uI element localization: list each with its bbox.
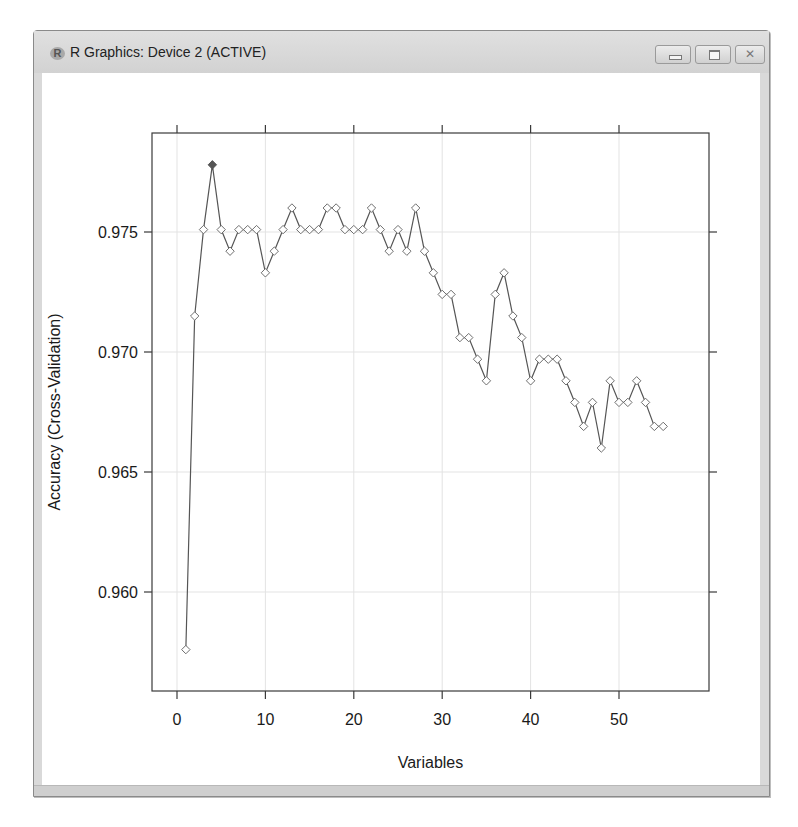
data-point-marker xyxy=(641,398,649,406)
data-point-marker xyxy=(226,247,234,255)
data-point-marker xyxy=(288,204,296,212)
data-point-marker xyxy=(297,225,305,233)
data-point-marker xyxy=(323,204,331,212)
data-point-marker xyxy=(199,225,207,233)
data-point-marker xyxy=(465,333,473,341)
data-point-marker xyxy=(650,422,658,430)
data-point-marker xyxy=(473,355,481,363)
x-axis-title: Variables xyxy=(398,754,464,771)
data-point-marker xyxy=(509,312,517,320)
window-title: R Graphics: Device 2 (ACTIVE) xyxy=(70,44,266,60)
data-point-marker xyxy=(438,290,446,298)
data-point-marker xyxy=(190,312,198,320)
best-point-marker xyxy=(208,161,216,169)
data-point-marker xyxy=(526,377,534,385)
maximize-icon xyxy=(709,50,720,60)
data-point-marker xyxy=(518,333,526,341)
data-point-marker xyxy=(562,377,570,385)
data-point-marker xyxy=(182,645,190,653)
close-icon: ✕ xyxy=(736,46,764,63)
data-point-marker xyxy=(491,290,499,298)
minimize-button[interactable] xyxy=(655,45,691,64)
window-bottom-border xyxy=(34,785,769,796)
data-point-marker xyxy=(261,269,269,277)
data-point-marker xyxy=(544,355,552,363)
y-tick-label: 0.970 xyxy=(98,344,138,361)
data-point-marker xyxy=(482,377,490,385)
data-point-marker xyxy=(235,225,243,233)
maximize-button[interactable] xyxy=(695,45,731,64)
r-app-icon: R xyxy=(50,47,65,60)
x-tick-label: 40 xyxy=(522,711,540,728)
data-point-marker xyxy=(456,333,464,341)
x-tick-label: 20 xyxy=(345,711,363,728)
x-tick-label: 30 xyxy=(433,711,451,728)
x-tick-label: 50 xyxy=(610,711,628,728)
data-point-marker xyxy=(632,377,640,385)
data-point-marker xyxy=(244,225,252,233)
y-tick-label: 0.960 xyxy=(98,584,138,601)
data-point-marker xyxy=(588,398,596,406)
data-point-marker xyxy=(571,398,579,406)
data-point-marker xyxy=(252,225,260,233)
data-point-marker xyxy=(579,422,587,430)
data-point-marker xyxy=(358,225,366,233)
title-bar[interactable]: R R Graphics: Device 2 (ACTIVE) ✕ xyxy=(34,31,769,73)
data-point-marker xyxy=(217,225,225,233)
r-graphics-window: R R Graphics: Device 2 (ACTIVE) ✕ 010203… xyxy=(33,30,770,797)
data-point-marker xyxy=(385,247,393,255)
close-button[interactable]: ✕ xyxy=(735,45,765,64)
data-point-marker xyxy=(305,225,313,233)
data-point-marker xyxy=(350,225,358,233)
y-tick-label: 0.975 xyxy=(98,224,138,241)
data-point-marker xyxy=(500,269,508,277)
x-tick-label: 0 xyxy=(173,711,182,728)
y-axis-title: Accuracy (Cross-Validation) xyxy=(46,313,63,510)
accuracy-line-chart: 010203040500.9600.9650.9700.975Variables… xyxy=(42,73,760,786)
data-point-marker xyxy=(332,204,340,212)
data-point-marker xyxy=(606,377,614,385)
data-point-marker xyxy=(270,247,278,255)
data-point-marker xyxy=(624,398,632,406)
y-tick-label: 0.965 xyxy=(98,464,138,481)
data-point-marker xyxy=(411,204,419,212)
data-point-marker xyxy=(314,225,322,233)
data-point-marker xyxy=(376,225,384,233)
data-point-marker xyxy=(420,247,428,255)
data-point-marker xyxy=(447,290,455,298)
data-point-marker xyxy=(659,422,667,430)
plot-area: 010203040500.9600.9650.9700.975Variables… xyxy=(42,73,760,786)
data-point-marker xyxy=(553,355,561,363)
accuracy-line xyxy=(186,165,663,650)
data-point-marker xyxy=(341,225,349,233)
data-point-marker xyxy=(403,247,411,255)
data-point-marker xyxy=(597,444,605,452)
data-point-marker xyxy=(615,398,623,406)
data-point-marker xyxy=(394,225,402,233)
minimize-icon xyxy=(669,55,682,60)
plot-frame xyxy=(152,133,709,691)
data-point-marker xyxy=(279,225,287,233)
x-tick-label: 10 xyxy=(257,711,275,728)
data-point-marker xyxy=(429,269,437,277)
data-point-marker xyxy=(535,355,543,363)
data-point-marker xyxy=(367,204,375,212)
